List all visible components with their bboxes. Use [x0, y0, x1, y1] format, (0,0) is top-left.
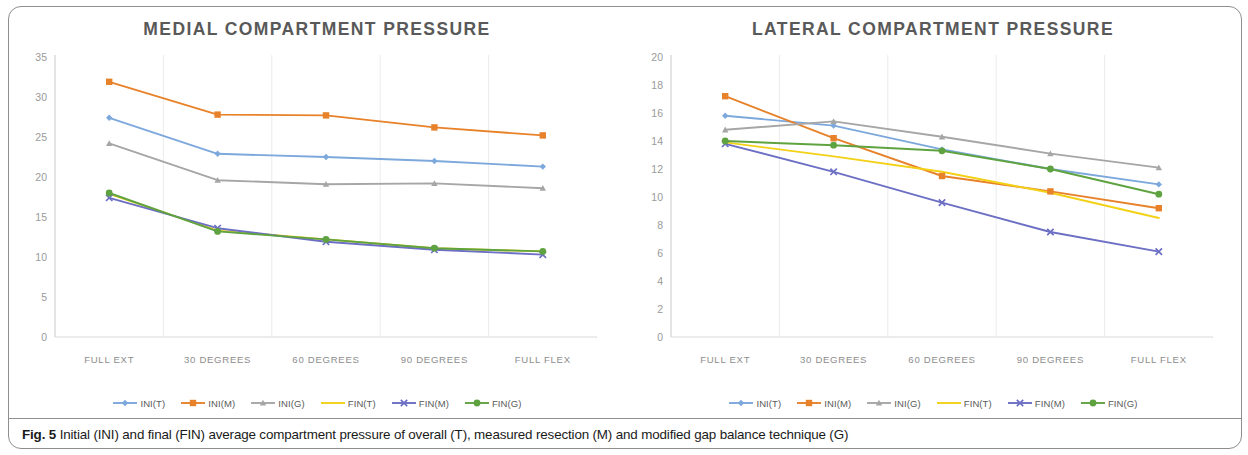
y-axis-tick-label: 18 [651, 79, 663, 91]
data-point [190, 400, 196, 406]
data-point [1156, 181, 1162, 187]
legend-lateral: INI(T)INI(M)INI(G)FIN(T)FIN(M)FIN(G) [625, 397, 1241, 409]
legend-item-label: FIN(M) [419, 398, 449, 409]
legend-item[interactable]: INI(M) [796, 397, 851, 409]
charts-row: MEDIAL COMPARTMENT PRESSURE 051015202530… [9, 7, 1241, 417]
chart-panel-lateral: LATERAL COMPARTMENT PRESSURE 02468101214… [625, 7, 1241, 417]
legend-item[interactable]: INI(G) [250, 397, 304, 409]
y-axis-tick-label: 12 [651, 163, 663, 175]
y-axis-tick-label: 0 [657, 331, 663, 343]
legend-item[interactable]: FIN(T) [936, 397, 992, 409]
caption-divider [9, 418, 1241, 419]
y-axis-tick-label: 16 [651, 107, 663, 119]
legend-marker-icon [728, 397, 754, 409]
x-axis-category-label: FULL FLEX [515, 354, 571, 365]
x-axis-category-label: FULL EXT [84, 354, 134, 365]
x-axis-category-label: 60 DEGREES [908, 354, 975, 365]
legend-item-label: INI(T) [756, 398, 781, 409]
legend-item[interactable]: FIN(M) [391, 397, 449, 409]
data-point [1047, 188, 1053, 194]
data-point [830, 142, 837, 149]
y-axis-tick-label: 25 [35, 131, 47, 143]
y-axis-tick-label: 2 [657, 303, 663, 315]
data-point [431, 245, 438, 252]
data-point [722, 113, 728, 119]
data-point [1155, 191, 1162, 198]
y-axis-tick-label: 35 [35, 51, 47, 63]
data-point [106, 190, 113, 197]
x-axis-category-label: 60 DEGREES [292, 354, 359, 365]
legend-item-label: INI(M) [208, 398, 235, 409]
data-point [214, 228, 221, 235]
data-point [939, 173, 945, 179]
figure-caption: Fig. 5 Initial (INI) and final (FIN) ave… [22, 427, 1232, 444]
y-axis-tick-label: 4 [657, 275, 663, 287]
data-point [806, 400, 812, 406]
legend-marker-icon [464, 397, 490, 409]
legend-item-label: FIN(T) [964, 398, 992, 409]
data-point [214, 111, 220, 117]
data-point [1047, 166, 1054, 173]
x-axis-category-label: 30 DEGREES [184, 354, 251, 365]
legend-item[interactable]: FIN(G) [464, 397, 522, 409]
data-point [214, 151, 220, 157]
legend-item[interactable]: INI(T) [112, 397, 165, 409]
data-point [106, 115, 112, 121]
legend-item-label: FIN(T) [348, 398, 376, 409]
legend-marker-icon [936, 397, 962, 409]
figure-caption-text: Initial (INI) and final (FIN) average co… [60, 427, 849, 442]
data-point [431, 124, 437, 130]
x-axis-category-label: FULL EXT [700, 354, 750, 365]
data-point [539, 248, 546, 255]
data-point [1090, 400, 1097, 407]
figure-page: MEDIAL COMPARTMENT PRESSURE 051015202530… [0, 0, 1248, 455]
legend-item-label: FIN(M) [1035, 398, 1065, 409]
y-axis-tick-label: 5 [41, 291, 47, 303]
figure-caption-prefix: Fig. 5 [22, 427, 56, 442]
legend-item[interactable]: FIN(T) [320, 397, 376, 409]
legend-item-label: INI(G) [278, 398, 304, 409]
y-axis-tick-label: 0 [41, 331, 47, 343]
y-axis-tick-label: 20 [651, 51, 663, 63]
data-point [323, 112, 329, 118]
legend-item-label: FIN(G) [1108, 398, 1138, 409]
y-axis-tick-label: 20 [35, 171, 47, 183]
data-point [1156, 205, 1162, 211]
legend-item[interactable]: FIN(G) [1080, 397, 1138, 409]
plot-area-medial: 05101520253035FULL EXT30 DEGREES60 DEGRE… [9, 49, 625, 379]
legend-marker-icon [391, 397, 417, 409]
x-axis-category-label: 30 DEGREES [800, 354, 867, 365]
legend-item[interactable]: INI(T) [728, 397, 781, 409]
data-point [540, 132, 546, 138]
data-point [722, 93, 728, 99]
y-axis-tick-label: 14 [651, 135, 663, 147]
legend-item[interactable]: INI(M) [180, 397, 235, 409]
x-axis-category-label: FULL FLEX [1131, 354, 1187, 365]
data-point [106, 79, 112, 85]
y-axis-tick-label: 10 [35, 251, 47, 263]
data-point [540, 163, 546, 169]
plot-area-lateral: 02468101214161820FULL EXT30 DEGREES60 DE… [625, 49, 1241, 379]
data-point [122, 400, 128, 406]
legend-item-label: INI(T) [140, 398, 165, 409]
chart-title-medial: MEDIAL COMPARTMENT PRESSURE [9, 19, 625, 40]
data-point [474, 400, 481, 407]
legend-item[interactable]: FIN(M) [1007, 397, 1065, 409]
legend-marker-icon [866, 397, 892, 409]
legend-medial: INI(T)INI(M)INI(G)FIN(T)FIN(M)FIN(G) [9, 397, 625, 409]
legend-item-label: INI(G) [894, 398, 920, 409]
legend-marker-icon [1007, 397, 1033, 409]
line-chart-medial: 05101520253035FULL EXT30 DEGREES60 DEGRE… [9, 49, 625, 379]
data-point [106, 140, 112, 146]
x-axis-category-label: 90 DEGREES [1017, 354, 1084, 365]
chart-title-lateral: LATERAL COMPARTMENT PRESSURE [625, 19, 1241, 40]
legend-marker-icon [1080, 397, 1106, 409]
data-point [738, 400, 744, 406]
y-axis-tick-label: 15 [35, 211, 47, 223]
legend-marker-icon [320, 397, 346, 409]
data-point [323, 236, 330, 243]
legend-marker-icon [112, 397, 138, 409]
y-axis-tick-label: 8 [657, 219, 663, 231]
legend-item[interactable]: INI(G) [866, 397, 920, 409]
legend-marker-icon [250, 397, 276, 409]
